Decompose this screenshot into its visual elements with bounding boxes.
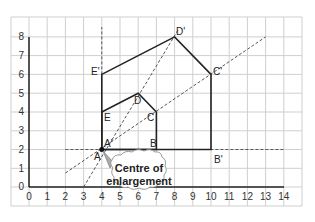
label-e: E [104,112,111,123]
x-tick: 10 [205,191,217,202]
centre-callout: Centre of enlargement [103,150,172,190]
x-tick: 9 [190,191,196,202]
y-tick: 6 [18,69,24,80]
x-tick: 5 [117,191,123,202]
label-d: D [134,95,141,106]
y-tick-labels: 0 1 2 3 4 5 6 7 8 [18,31,24,192]
y-tick: 7 [18,50,24,61]
y-tick: 2 [18,144,24,155]
x-tick: 2 [63,191,69,202]
y-tick: 8 [18,31,24,42]
label-c-prime: C' [213,66,222,77]
x-tick: 14 [278,191,290,202]
x-tick: 4 [99,191,105,202]
y-tick: 1 [18,163,24,174]
x-tick: 3 [81,191,87,202]
y-tick: 3 [18,125,24,136]
callout-text-line1: Centre of [115,162,164,174]
label-a: A [94,151,101,162]
enlargement-diagram: 0 1 2 3 4 5 6 7 8 9 10 11 12 13 14 0 1 2… [0,0,315,222]
label-d-prime: D' [176,26,185,37]
y-tick: 0 [18,181,24,192]
label-b: B [150,138,157,149]
label-a-prime: A' [104,138,113,149]
y-tick: 4 [18,106,24,117]
x-tick: 0 [26,191,32,202]
x-tick: 7 [154,191,160,202]
x-tick: 13 [260,191,272,202]
label-e-prime: E' [91,66,100,77]
callout-text-line2: enlargement [106,175,172,187]
x-tick: 1 [44,191,50,202]
y-tick: 5 [18,88,24,99]
label-b-prime: B' [214,154,223,165]
label-c: C [147,112,154,123]
x-tick: 12 [242,191,254,202]
x-tick: 6 [135,191,141,202]
x-tick: 8 [172,191,178,202]
x-tick-labels: 0 1 2 3 4 5 6 7 8 9 10 11 12 13 14 [26,191,290,202]
x-tick: 11 [224,191,235,202]
